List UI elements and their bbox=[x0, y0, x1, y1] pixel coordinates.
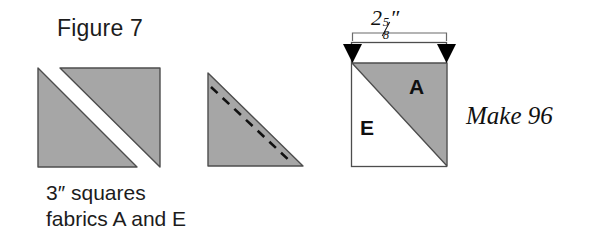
dimension-unit: ″ bbox=[390, 5, 399, 30]
caption-line-1: 3″ squares bbox=[46, 180, 186, 206]
step1-cut-triangles bbox=[38, 68, 160, 167]
dimension-label: 258″ bbox=[371, 7, 399, 42]
make-quantity-label: Make 96 bbox=[466, 103, 553, 128]
patch-a-label: A bbox=[409, 76, 424, 97]
bracket-line bbox=[353, 33, 447, 41]
step3-finished-block bbox=[343, 33, 456, 167]
dimension-whole: 2 bbox=[371, 5, 382, 30]
caption: 3″ squares fabrics A and E bbox=[46, 180, 186, 232]
seam-triangle bbox=[208, 73, 303, 166]
figure-7-diagram: Figure 7 258″ A E Make 96 3″ squares fab… bbox=[0, 0, 591, 242]
fraction-denominator: 8 bbox=[382, 29, 390, 42]
caption-line-2: fabrics A and E bbox=[46, 206, 186, 232]
page-title: Figure 7 bbox=[57, 17, 143, 40]
step2-triangle-with-seam bbox=[208, 73, 303, 166]
patch-e-label: E bbox=[360, 117, 374, 138]
dimension-fraction: 58 bbox=[382, 16, 390, 42]
